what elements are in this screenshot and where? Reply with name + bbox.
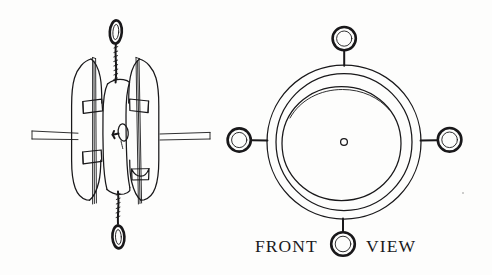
front-view-figure [228,27,462,256]
center-hole [341,139,348,146]
ring-bottom [331,219,355,256]
outer-rim-circle [267,65,421,219]
ring-left [228,128,268,151]
caption-view: VIEW [366,236,416,257]
bottom-twisted-line [116,192,120,225]
top-terminal-loop [109,20,123,44]
clamp-block-right-upper [130,99,149,113]
center-barrel-body [103,79,130,194]
top-twisted-line [114,45,118,83]
ring-top [333,27,356,66]
line-drawing-canvas [0,0,492,275]
paper-speck [462,192,464,194]
ring-right [421,128,462,152]
inner-disc-highlight-arc [290,90,390,119]
drawing-page: FRONT VIEW [0,0,492,275]
clamp-block-right-lower [132,169,149,180]
right-blade-shell [129,59,159,200]
horizontal-wire-right [160,132,210,140]
side-view-figure [32,20,210,249]
inner-rim-circle [276,74,412,211]
right-vertical-rod [136,58,142,205]
caption-front: FRONT [255,236,318,257]
left-blade-shell [72,59,102,200]
left-vertical-rod [93,58,97,205]
bottom-terminal-loop [112,225,125,248]
